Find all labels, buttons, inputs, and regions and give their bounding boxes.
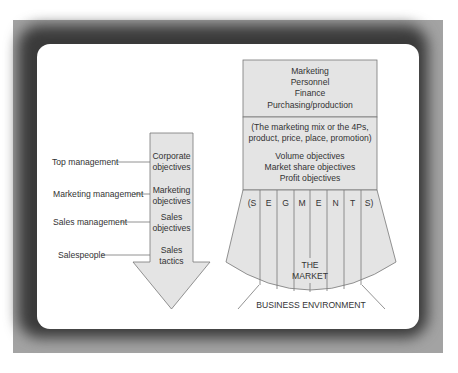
segment-letter: E (316, 198, 322, 208)
marketing-mix-line2: product, price, place, promotion) (248, 133, 371, 143)
function-purchasing: Purchasing/production (267, 100, 353, 110)
function-finance: Finance (295, 88, 326, 98)
role-top-management: Top management (52, 157, 119, 167)
function-personnel: Personnel (291, 77, 330, 87)
segment-letter: (S (248, 198, 257, 208)
segment-letter: N (332, 198, 338, 208)
segment-letter: T (350, 198, 356, 208)
tactics-sales-line2: tactics (159, 256, 183, 266)
objective-sales-line2: objectives (152, 223, 190, 233)
segment-letter: S) (365, 198, 374, 208)
market-label-line2: MARKET (292, 271, 329, 281)
market-label-line1: THE (301, 260, 318, 270)
role-salespeople: Salespeople (58, 250, 106, 260)
objective-corporate-line2: objectives (152, 162, 190, 172)
profit-objectives: Profit objectives (280, 173, 341, 183)
objective-corporate-line1: Corporate (152, 151, 190, 161)
role-marketing-management: Marketing management (53, 189, 144, 199)
objective-marketing-line1: Marketing (153, 185, 191, 195)
marketing-mix-line1: (The marketing mix or the 4Ps, (251, 122, 369, 132)
objective-sales-line1: Sales (161, 212, 183, 222)
business-environment-label: BUSINESS ENVIRONMENT (256, 300, 366, 310)
marketing-hierarchy-diagram: Top management Marketing management Sale… (0, 0, 458, 373)
role-sales-management: Sales management (53, 217, 128, 227)
volume-objectives: Volume objectives (275, 151, 344, 161)
function-marketing: Marketing (291, 66, 329, 76)
objective-marketing-line2: objectives (152, 196, 190, 206)
segment-letter: M (298, 198, 305, 208)
market-share-objectives: Market share objectives (265, 162, 356, 172)
segment-letter: G (282, 198, 289, 208)
segment-letter: E (266, 198, 272, 208)
tactics-sales-line1: Sales (161, 245, 183, 255)
